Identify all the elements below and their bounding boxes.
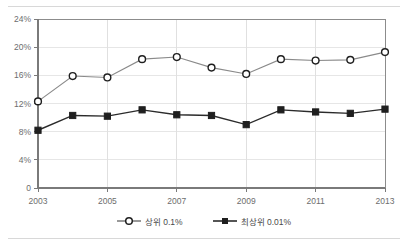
data-point [278, 56, 285, 63]
x-tick-label: 2011 [306, 196, 325, 206]
y-tick-label: 20% [14, 42, 31, 52]
legend-item-top-001: 최상위 0.01% [213, 215, 291, 227]
data-point [69, 73, 76, 80]
chart-legend: 상위 0.1% 최상위 0.01% [0, 210, 408, 232]
legend-label-top-01: 상위 0.1% [145, 215, 183, 227]
legend-label-top-001: 최상위 0.01% [241, 215, 291, 227]
y-tick-label: 4% [19, 155, 32, 165]
x-tick-label: 2009 [237, 196, 256, 206]
data-point [382, 106, 388, 112]
y-tick-label: 0 [26, 183, 31, 193]
plot-area: 04%8%12%16%20%24% 2003200520072009201120… [0, 0, 408, 245]
x-tick-label: 2007 [167, 196, 186, 206]
x-tick-label: 2003 [29, 196, 48, 206]
y-tick-label: 24% [14, 14, 31, 24]
x-tick-label: 2005 [98, 196, 117, 206]
axis-ticks [34, 19, 385, 192]
data-point [278, 107, 284, 113]
x-axis-labels: 200320052007200920112013 [29, 196, 395, 206]
data-point [347, 56, 354, 63]
data-point [104, 113, 110, 119]
data-point [243, 71, 250, 78]
y-axis-labels: 04%8%12%16%20%24% [14, 14, 31, 193]
data-point [139, 107, 145, 113]
y-tick-label: 12% [14, 99, 31, 109]
data-point [104, 74, 111, 81]
data-point [312, 57, 319, 64]
data-point [347, 110, 353, 116]
y-tick-label: 8% [19, 127, 32, 137]
series-markers [35, 49, 389, 134]
series-line-0 [38, 52, 385, 101]
data-point [70, 112, 76, 118]
data-point [174, 112, 180, 118]
legend-item-top-01: 상위 0.1% [117, 215, 183, 227]
data-point [243, 122, 249, 128]
data-point [139, 56, 146, 63]
line-chart-svg: 04%8%12%16%20%24% 2003200520072009201120… [0, 0, 408, 245]
data-point [35, 127, 41, 133]
chart-figure: 04%8%12%16%20%24% 2003200520072009201120… [0, 0, 408, 245]
data-point [208, 112, 214, 118]
horizontal-gridlines [38, 19, 385, 160]
y-tick-label: 16% [14, 70, 31, 80]
data-point [208, 64, 215, 71]
data-point [382, 49, 389, 56]
data-point [35, 98, 42, 105]
filled-square-marker-icon [213, 215, 237, 227]
data-point [313, 109, 319, 115]
open-circle-marker-icon [117, 215, 141, 227]
data-point [173, 54, 180, 61]
x-tick-label: 2013 [376, 196, 395, 206]
